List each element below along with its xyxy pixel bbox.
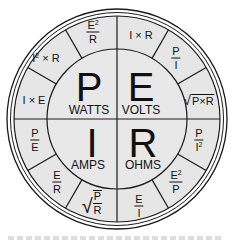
formula-i-times-e: I × E bbox=[23, 95, 46, 106]
formula-p-over-i: PI bbox=[171, 42, 180, 71]
power-symbol: P bbox=[76, 67, 103, 107]
denominator: R bbox=[89, 33, 97, 45]
formula-e-over-r: ER bbox=[52, 166, 61, 195]
formula-times-r: × R bbox=[39, 52, 59, 64]
formula-p-over-e: PE bbox=[30, 124, 39, 153]
voltage-unit: VOLTS bbox=[122, 104, 160, 116]
ohms-law-wheel bbox=[0, 0, 232, 240]
formula-p-over-i-squared: PI2 bbox=[194, 124, 203, 153]
power-unit: WATTS bbox=[69, 104, 110, 116]
formula-i-squared-times-r: I2 × R bbox=[32, 53, 59, 64]
sqrt-icon: √ bbox=[183, 93, 191, 107]
voltage-symbol: E bbox=[128, 67, 155, 107]
current-symbol: I bbox=[86, 123, 97, 163]
formula-e-over-i: EI bbox=[134, 190, 143, 219]
formula-e-squared-over-r: E2R bbox=[86, 16, 99, 45]
sqrt-icon: √ bbox=[82, 196, 93, 216]
formula-sqrt-p-times-r: √P×R bbox=[183, 93, 214, 107]
formula-e-squared-over-p: E2P bbox=[169, 166, 182, 195]
current-unit: AMPS bbox=[71, 159, 105, 171]
numerator: E2 bbox=[86, 20, 99, 33]
resistance-unit: OHMS bbox=[125, 159, 161, 171]
resistance-symbol: R bbox=[129, 123, 158, 163]
caption-cropped bbox=[8, 236, 224, 240]
formula-i-times-r: I × R bbox=[129, 30, 153, 41]
formula-sqrt-p-over-r: √PR bbox=[82, 190, 102, 216]
